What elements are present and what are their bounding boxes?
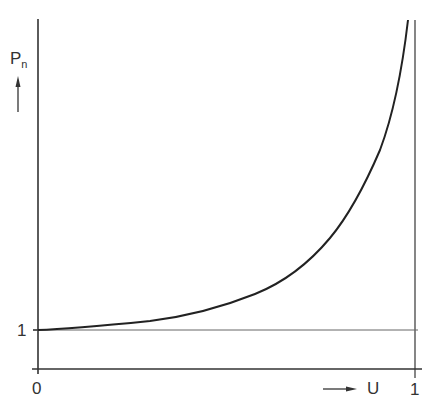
chart-canvas xyxy=(0,0,429,407)
pn-curve xyxy=(38,20,408,330)
y-axis-arrow-head-icon xyxy=(16,76,21,87)
y-axis-label-sub: n xyxy=(21,58,27,70)
x-tick-label-0: 0 xyxy=(32,380,41,397)
y-axis-label: Pn xyxy=(10,50,27,67)
x-tick-label-1: 1 xyxy=(410,381,419,398)
y-axis-label-main: P xyxy=(10,49,21,68)
x-axis-label: U xyxy=(367,380,379,397)
y-tick-label-1: 1 xyxy=(17,322,26,339)
x-axis-arrow-head-icon xyxy=(346,387,357,392)
